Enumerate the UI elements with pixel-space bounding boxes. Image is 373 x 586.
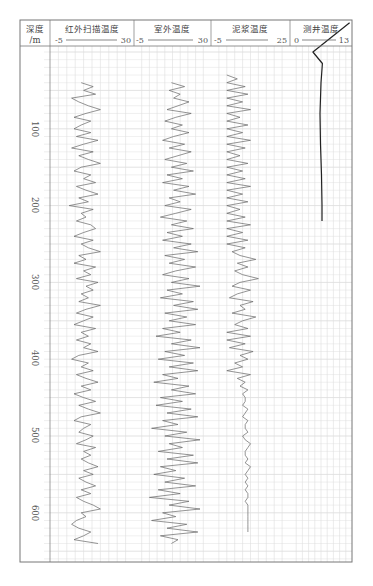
chart-header: 深度 /m 红外扫描温度 -5 30 室外温度 -5 30 泥浆温度 -5 25… bbox=[26, 24, 349, 45]
depth-labels: 100 200 300 400 500 600 bbox=[30, 121, 40, 521]
depth-label-500: 500 bbox=[30, 427, 40, 443]
track-min-well: 0 bbox=[294, 36, 299, 45]
track-max-infrared: 30 bbox=[121, 36, 131, 45]
track-min-mud: -5 bbox=[214, 36, 222, 45]
depth-header-line2: /m bbox=[30, 35, 41, 45]
depth-label-100: 100 bbox=[30, 121, 40, 137]
track-max-outdoor: 30 bbox=[198, 36, 208, 45]
track-min-outdoor: -5 bbox=[136, 36, 144, 45]
depth-header-line1: 深度 bbox=[26, 24, 44, 34]
curves bbox=[69, 23, 349, 544]
depth-label-300: 300 bbox=[30, 274, 40, 290]
track-title-mud: 泥浆温度 bbox=[232, 24, 268, 34]
track-min-infrared: -5 bbox=[55, 36, 63, 45]
track-title-infrared: 红外扫描温度 bbox=[65, 24, 119, 34]
depth-label-600: 600 bbox=[30, 505, 40, 521]
curve-well bbox=[313, 23, 350, 221]
depth-label-200: 200 bbox=[30, 197, 40, 213]
track-max-well: 13 bbox=[339, 36, 349, 45]
well-log-chart: 深度 /m 红外扫描温度 -5 30 室外温度 -5 30 泥浆温度 -5 25… bbox=[0, 0, 373, 586]
track-title-outdoor: 室外温度 bbox=[154, 24, 190, 34]
depth-label-400: 400 bbox=[30, 350, 40, 366]
track-max-mud: 25 bbox=[277, 36, 287, 45]
track-title-well: 测井温度 bbox=[303, 24, 339, 34]
grid-lines bbox=[44, 46, 352, 562]
